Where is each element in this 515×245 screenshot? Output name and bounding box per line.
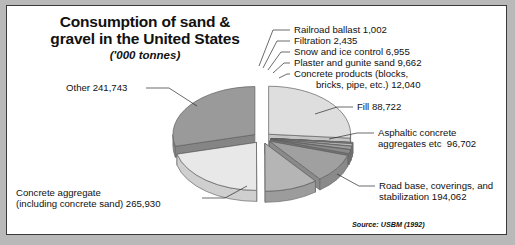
label-asphaltic-line1: Asphaltic concrete xyxy=(378,127,456,138)
label-roadbase-line1: Road base, coverings, and xyxy=(379,180,493,191)
label-filtration: Filtration 2,435 xyxy=(294,35,357,46)
leader-other xyxy=(146,88,197,106)
leader-fill xyxy=(315,107,353,114)
leader-asphaltic xyxy=(329,133,374,139)
label-railroad-ballast: Railroad ballast 1,002 xyxy=(294,24,387,35)
label-roadbase-line2: stabilization 194,062 xyxy=(379,191,466,202)
leader-concrete-products xyxy=(279,74,290,78)
label-concrete-aggregate-line1: Concrete aggregate xyxy=(16,187,101,198)
label-concrete-products-line2: bricks, pipe, etc.) 12,040 xyxy=(316,79,421,90)
label-snow-ice-control: Snow and ice control 6,955 xyxy=(294,46,410,57)
label-plaster-gunite-sand: Plaster and gunite sand 9,662 xyxy=(294,57,421,68)
label-concrete-products-line1: Concrete products (blocks, xyxy=(294,68,408,79)
source-note: Source: USBM (1992) xyxy=(352,220,425,229)
label-concrete-aggregate-line2: (including concrete sand) 265,930 xyxy=(16,198,161,209)
label-asphaltic-line2: aggregates etc 96,702 xyxy=(378,138,476,149)
leader-plaster xyxy=(273,63,290,73)
label-fill: Fill 88,722 xyxy=(357,101,401,112)
label-other: Other 241,743 xyxy=(66,82,127,93)
leader-roadbase xyxy=(337,174,375,186)
chart-figure: Consumption of sand & gravel in the Unit… xyxy=(6,5,507,235)
leader-concrete-aggregate xyxy=(202,186,247,198)
